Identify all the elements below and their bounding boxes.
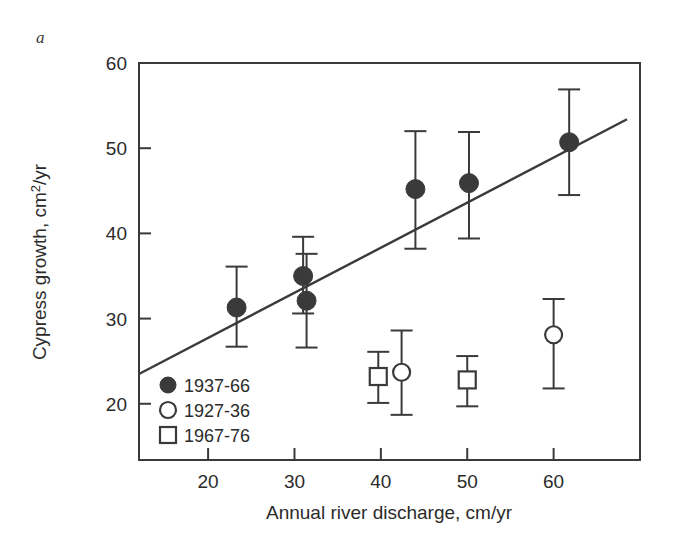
figure-panel: a 2030405060 2030405060 Annual river dis… — [0, 0, 676, 557]
legend-label-1927-36: 1927-36 — [184, 401, 250, 421]
x-tick-label-60: 60 — [543, 471, 564, 492]
x-axis-tick-labels: 2030405060 — [198, 471, 565, 492]
point-filled-circle — [560, 133, 579, 152]
y-tick-label-50: 50 — [106, 138, 127, 159]
y-axis-ticks — [139, 63, 151, 404]
legend-marker-filled-circle — [160, 377, 176, 393]
y-axis-tick-labels: 2030405060 — [106, 53, 127, 415]
y-tick-label-30: 30 — [106, 309, 127, 330]
point-open-square — [459, 371, 476, 388]
x-axis-ticks — [208, 448, 554, 460]
point-filled-circle — [297, 291, 316, 310]
legend-marker-open-circle — [160, 402, 176, 418]
y-tick-label-60: 60 — [106, 53, 127, 74]
x-tick-label-50: 50 — [457, 471, 478, 492]
point-open-circle — [545, 326, 562, 343]
point-open-circle — [393, 364, 410, 381]
legend-label-1967-76: 1967-76 — [184, 426, 250, 446]
y-axis-title: Cypress growth, cm2/yr — [28, 163, 50, 360]
legend-marker-open-square — [160, 427, 176, 443]
x-tick-label-40: 40 — [370, 471, 391, 492]
scatter-plot: 2030405060 2030405060 Annual river disch… — [0, 0, 676, 557]
point-filled-circle — [459, 174, 478, 193]
point-open-square — [370, 368, 387, 385]
x-axis-title: Annual river discharge, cm/yr — [266, 502, 513, 523]
point-filled-circle — [227, 298, 246, 317]
y-tick-label-20: 20 — [106, 394, 127, 415]
legend-label-1937-66: 1937-66 — [184, 376, 250, 396]
x-tick-label-20: 20 — [198, 471, 219, 492]
point-filled-circle — [294, 266, 313, 285]
panel-letter: a — [36, 28, 45, 48]
legend: 1937-661927-361967-76 — [160, 376, 250, 446]
y-tick-label-40: 40 — [106, 223, 127, 244]
point-filled-circle — [406, 180, 425, 199]
x-tick-label-30: 30 — [284, 471, 305, 492]
